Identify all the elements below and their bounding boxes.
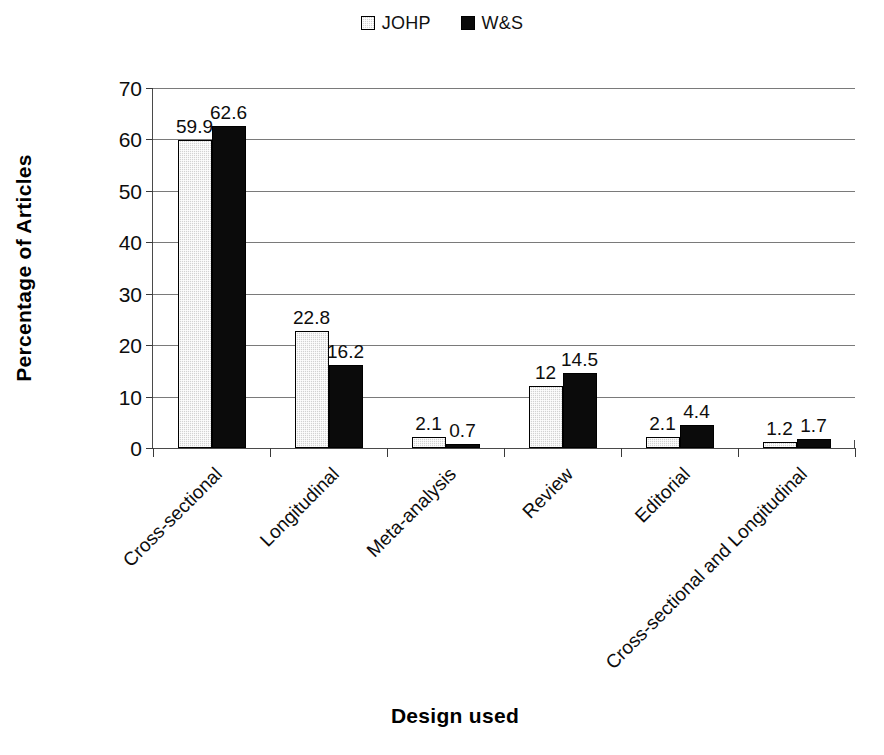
x-tick-mark	[387, 448, 388, 457]
bar-johp	[646, 437, 680, 448]
x-tick-mark	[855, 448, 856, 457]
y-tick-mark	[146, 88, 153, 89]
bar-value-label: 2.1	[649, 414, 675, 433]
gridline	[153, 88, 855, 89]
y-tick-label: 10	[119, 386, 142, 407]
y-tick-label: 50	[119, 180, 142, 201]
gridline	[153, 345, 855, 346]
y-tick-label: 30	[119, 283, 142, 304]
y-tick-mark	[146, 242, 153, 243]
gridline	[153, 397, 855, 398]
y-tick-label: 40	[119, 232, 142, 253]
gridline	[153, 294, 855, 295]
bar-johp	[412, 437, 446, 448]
legend-swatch-icon-johp	[361, 16, 375, 30]
legend-entry-ws: W&S	[461, 14, 524, 32]
x-axis-category-label-text: Longitudinal	[256, 464, 342, 550]
bar-chart-figure: JOHP W&S 010203040506070 59.962.622.816.…	[0, 0, 884, 755]
y-tick-label: 0	[130, 438, 142, 459]
y-tick-label: 70	[119, 78, 142, 99]
gridline	[153, 242, 855, 243]
y-tick-mark	[146, 294, 153, 295]
bar-value-label: 14.5	[561, 350, 598, 369]
x-axis-category-label-text: Meta-analysis	[363, 464, 459, 560]
x-tick-mark	[270, 448, 271, 457]
y-axis-title: Percentage of Articles	[8, 88, 40, 448]
bar-johp	[763, 442, 797, 448]
y-tick-mark	[146, 345, 153, 346]
bar-johp	[178, 140, 212, 448]
y-axis-line	[152, 88, 153, 449]
x-tick-mark	[153, 448, 154, 457]
y-tick-mark	[146, 397, 153, 398]
bar-value-label: 62.6	[210, 103, 247, 122]
legend-swatch-icon-ws	[461, 16, 475, 30]
legend-label-johp: JOHP	[382, 14, 431, 32]
y-tick-mark	[146, 448, 153, 449]
gridline	[153, 191, 855, 192]
bar-value-label: 1.2	[766, 419, 792, 438]
x-axis-category-label-text: Review	[518, 464, 575, 521]
x-axis-title: Design used	[153, 704, 757, 728]
x-axis-category-label-text: Cross-sectional	[119, 464, 225, 570]
y-tick-mark	[146, 191, 153, 192]
x-tick-mark	[504, 448, 505, 457]
legend-entry-johp: JOHP	[361, 14, 431, 32]
y-tick-mark	[146, 139, 153, 140]
bar-value-label: 4.4	[683, 402, 709, 421]
plot-area: 010203040506070 59.962.622.816.22.10.712…	[153, 88, 855, 448]
bar-value-label: 16.2	[327, 342, 364, 361]
x-axis-category-label-text: Editorial	[631, 464, 693, 526]
bar-ws	[212, 126, 246, 448]
x-tick-mark	[738, 448, 739, 457]
bar-value-label: 59.9	[176, 117, 213, 136]
bar-value-label: 22.8	[293, 308, 330, 327]
y-tick-label: 20	[119, 335, 142, 356]
bar-value-label: 1.7	[800, 416, 826, 435]
legend-label-ws: W&S	[482, 14, 524, 32]
y-tick-label: 60	[119, 129, 142, 150]
chart-legend: JOHP W&S	[0, 14, 884, 32]
x-tick-mark	[621, 448, 622, 457]
x-axis-category-label-text: Cross-sectional and Longitudinal	[602, 464, 810, 672]
bar-value-label: 12	[535, 363, 556, 382]
bar-value-label: 2.1	[415, 414, 441, 433]
gridline	[153, 139, 855, 140]
